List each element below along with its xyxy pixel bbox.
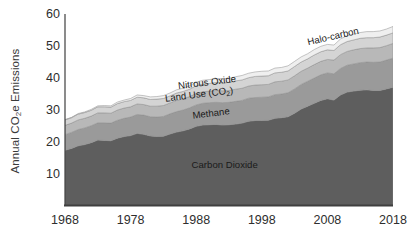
y-tick-label: 50	[34, 39, 60, 53]
y-tick-label: 20	[34, 135, 60, 149]
y-tick-label: 60	[34, 7, 60, 21]
x-tick-label: 1988	[182, 213, 210, 227]
y-axis-title-pre: Annual CO	[9, 116, 21, 173]
y-axis-tick-labels: 102030405060	[30, 0, 60, 238]
x-tick-label: 1968	[51, 213, 79, 227]
x-tick-label: 1978	[117, 213, 145, 227]
x-tick-label: 2018	[379, 213, 407, 227]
y-tick-label: 30	[34, 103, 60, 117]
stacked-area-chart: Annual CO2e Emissions 102030405060 19681…	[0, 0, 412, 238]
y-axis-title-sub: 2	[14, 112, 23, 117]
x-tick-label: 2008	[313, 213, 341, 227]
y-axis-title: Annual CO2e Emissions	[9, 18, 21, 204]
y-tick-label: 40	[34, 71, 60, 85]
x-tick-label: 1998	[248, 213, 276, 227]
y-tick-label: 10	[34, 167, 60, 181]
series-label-carbon-dioxide: Carbon Dioxide	[192, 158, 258, 169]
y-axis-title-post: e Emissions	[9, 49, 21, 112]
